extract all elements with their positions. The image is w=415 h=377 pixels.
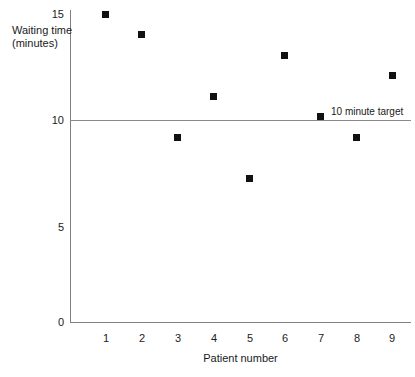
y-tick-label-15: 15: [36, 9, 64, 20]
y-tick-5: 5: [36, 222, 64, 233]
y-tick-label-0: 0: [36, 317, 64, 328]
x-axis-title: Patient number: [70, 352, 411, 365]
waiting-time-scatter-chart: 15 10 5 0 Waiting time (minutes) 10 minu…: [0, 0, 415, 377]
x-tick-label-2: 2: [130, 332, 154, 344]
y-tick-label-5: 5: [36, 222, 64, 233]
x-axis-line: [70, 322, 411, 323]
x-tick-label-1: 1: [94, 332, 118, 344]
x-tick-label-8: 8: [345, 332, 369, 344]
data-point: [281, 52, 288, 59]
y-tick-label-10: 10: [36, 115, 64, 126]
target-line-label: 10 minute target: [331, 106, 403, 117]
x-tick-label-3: 3: [166, 332, 190, 344]
y-tick-0: 0: [36, 317, 64, 328]
x-tick-label-6: 6: [273, 332, 297, 344]
x-tick-label-7: 7: [309, 332, 333, 344]
y-axis-title-line-1: Waiting time: [12, 24, 74, 37]
y-tick-10: 10: [36, 115, 64, 126]
data-point: [353, 134, 360, 141]
target-reference-line: [70, 120, 411, 121]
data-point: [317, 113, 324, 120]
data-point: [389, 72, 396, 79]
data-point: [210, 93, 217, 100]
x-tick-label-4: 4: [202, 332, 226, 344]
data-point: [174, 134, 181, 141]
data-point: [138, 31, 145, 38]
x-tick-label-9: 9: [380, 332, 404, 344]
y-axis-title: Waiting time (minutes): [12, 24, 74, 50]
y-axis-line: [70, 10, 71, 323]
data-point: [246, 175, 253, 182]
x-tick-label-5: 5: [238, 332, 262, 344]
y-axis-title-line-2: (minutes): [12, 37, 74, 50]
y-tick-15: 15: [36, 9, 64, 20]
data-point: [102, 11, 109, 18]
